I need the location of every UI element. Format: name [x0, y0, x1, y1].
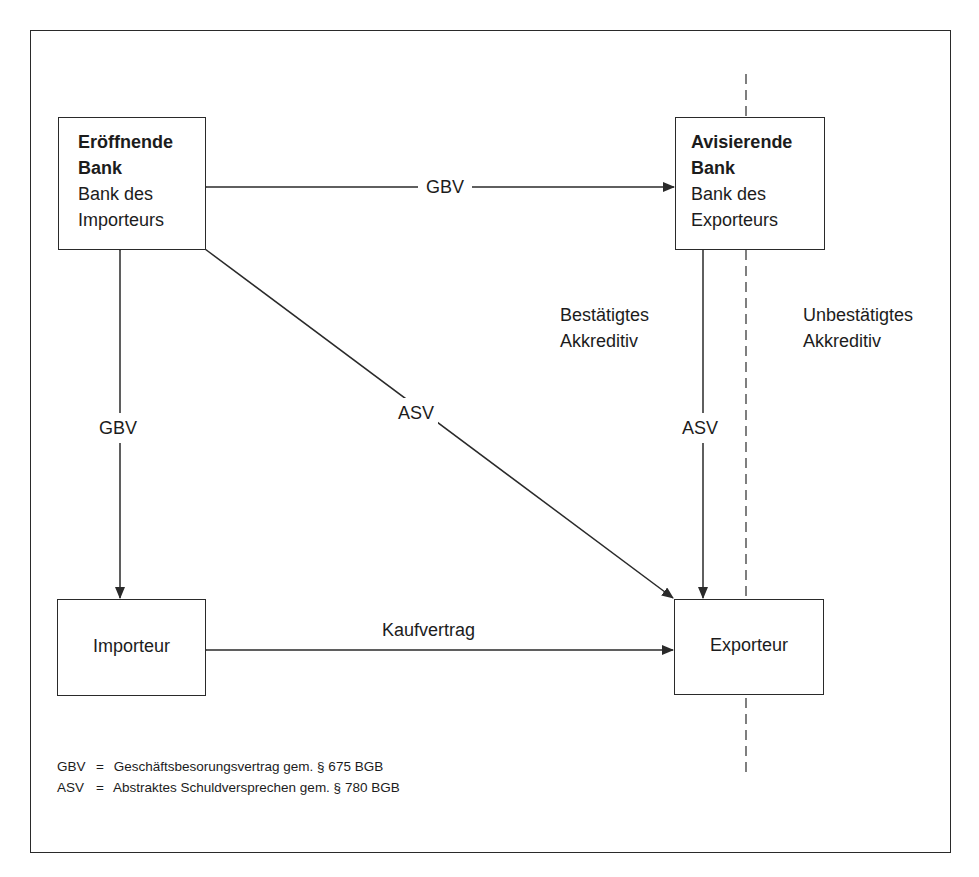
legend-text: Abstraktes Schuldversprechen gem. § 780 … [113, 780, 400, 795]
advising-bank-line2: Exporteurs [691, 207, 792, 233]
node-opening-bank: Eröffnende Bank Bank des Importeurs [58, 117, 206, 250]
advising-bank-title2: Bank [691, 155, 792, 181]
opening-bank-line2: Importeurs [78, 207, 173, 233]
legend-abbr: GBV [57, 756, 90, 777]
legend-row-asv: ASV= Abstraktes Schuldversprechen gem. §… [57, 777, 400, 798]
region-confirmed-line1: Bestätigtes [560, 302, 649, 328]
legend-equals: = [90, 756, 110, 777]
advising-bank-line1: Bank des [691, 181, 792, 207]
label-kaufvertrag: Kaufvertrag [382, 619, 475, 641]
legend-equals: = [90, 777, 110, 798]
region-unconfirmed-line2: Akkreditiv [803, 328, 913, 354]
node-exporter: Exporteur [674, 599, 824, 695]
region-confirmed-line2: Akkreditiv [560, 328, 649, 354]
label-right-asv: ASV [680, 413, 720, 443]
legend-row-gbv: GBV= Geschäftsbesorungsvertrag gem. § 67… [57, 756, 400, 777]
legend: GBV= Geschäftsbesorungsvertrag gem. § 67… [57, 756, 400, 798]
label-diagonal-asv: ASV [394, 398, 438, 428]
node-importer: Importeur [57, 599, 206, 696]
region-unconfirmed-line1: Unbestätigtes [803, 302, 913, 328]
label-banks-gbv: GBV [418, 176, 472, 198]
region-confirmed-label: Bestätigtes Akkreditiv [560, 302, 649, 354]
label-left-gbv: GBV [97, 413, 139, 443]
opening-bank-line1: Bank des [78, 181, 173, 207]
importer-label: Importeur [58, 636, 205, 657]
opening-bank-title2: Bank [78, 155, 173, 181]
exporter-label: Exporteur [675, 635, 823, 656]
legend-abbr: ASV [57, 777, 90, 798]
node-advising-bank: Avisierende Bank Bank des Exporteurs [675, 117, 825, 250]
advising-bank-title: Avisierende [691, 129, 792, 155]
opening-bank-title: Eröffnende [78, 129, 173, 155]
region-unconfirmed-label: Unbestätigtes Akkreditiv [803, 302, 913, 354]
legend-text: Geschäftsbesorungsvertrag gem. § 675 BGB [114, 759, 383, 774]
